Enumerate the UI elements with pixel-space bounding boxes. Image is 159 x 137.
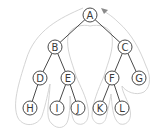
node-i: I bbox=[50, 101, 64, 115]
node-k: K bbox=[93, 101, 107, 115]
node-label: C bbox=[122, 42, 129, 53]
node-c: C bbox=[118, 40, 132, 54]
node-d: D bbox=[33, 71, 47, 85]
node-label: E bbox=[65, 73, 71, 84]
node-j: J bbox=[71, 101, 85, 115]
node-label: D bbox=[36, 73, 44, 84]
node-b: B bbox=[48, 40, 62, 54]
node-label: H bbox=[26, 103, 34, 114]
node-label: J bbox=[76, 103, 80, 114]
node-e: E bbox=[61, 71, 75, 85]
node-l: L bbox=[115, 101, 129, 115]
node-label: A bbox=[87, 10, 94, 21]
node-label: K bbox=[97, 103, 104, 114]
node-f: F bbox=[105, 71, 119, 85]
node-h: H bbox=[23, 101, 37, 115]
node-label: I bbox=[56, 103, 59, 114]
node-g: G bbox=[132, 71, 146, 85]
node-label: B bbox=[52, 42, 59, 53]
tree-nodes: ABCDEFGHIJKL bbox=[23, 8, 146, 115]
node-label: L bbox=[119, 103, 125, 114]
tree-diagram: ABCDEFGHIJKL bbox=[0, 0, 159, 137]
node-label: G bbox=[135, 73, 143, 84]
node-a: A bbox=[83, 8, 97, 22]
node-label: F bbox=[109, 73, 115, 84]
